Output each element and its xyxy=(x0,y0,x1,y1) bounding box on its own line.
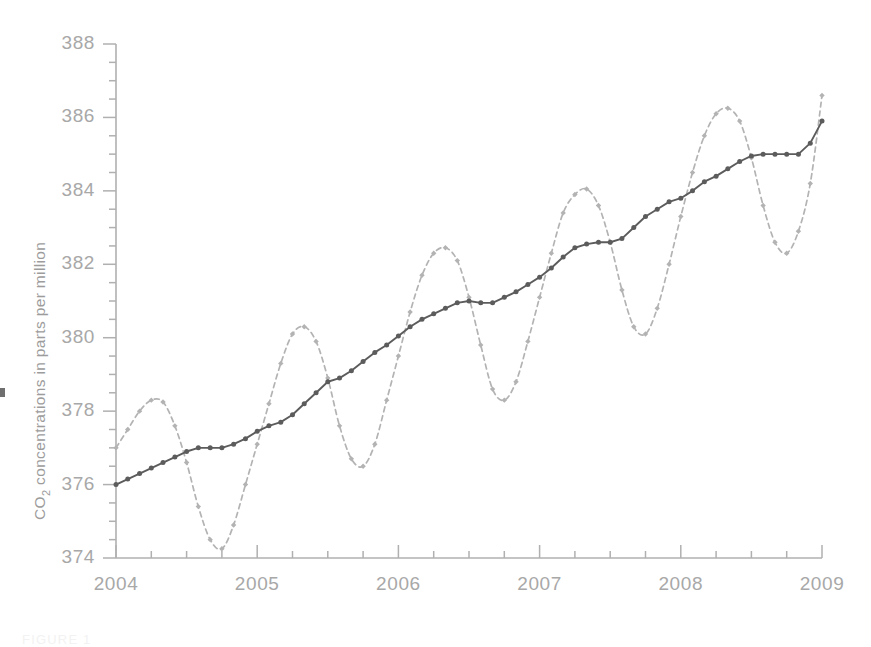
figure-caption: FIGURE 1 xyxy=(22,632,92,647)
data-point-marker xyxy=(537,275,542,280)
data-point-marker xyxy=(502,295,507,300)
data-point-marker xyxy=(808,141,813,146)
data-point-marker xyxy=(819,93,824,98)
data-point-marker xyxy=(360,464,365,469)
data-point-marker xyxy=(808,181,813,186)
data-point-marker xyxy=(443,245,448,250)
data-point-marker xyxy=(114,482,119,487)
data-point-marker xyxy=(467,299,472,304)
data-point-marker xyxy=(478,300,483,305)
y-axis-tick-label: 380 xyxy=(61,326,95,347)
data-point-marker xyxy=(337,376,342,381)
data-point-marker xyxy=(161,460,166,465)
data-point-marker xyxy=(760,203,765,208)
data-point-marker xyxy=(172,455,177,460)
x-axis-tick-label: 2009 xyxy=(800,573,845,594)
data-point-marker xyxy=(349,368,354,373)
x-axis-tick-label: 2007 xyxy=(517,573,562,594)
data-point-marker xyxy=(325,379,330,384)
data-point-marker xyxy=(243,436,248,441)
data-point-marker xyxy=(278,420,283,425)
data-point-marker xyxy=(196,504,201,509)
data-point-marker xyxy=(255,441,260,446)
x-axis-tick-label: 2005 xyxy=(235,573,280,594)
x-axis-tick-label: 2008 xyxy=(658,573,703,594)
y-axis-tick-label: 384 xyxy=(61,179,95,200)
data-point-marker xyxy=(314,390,319,395)
data-point-marker xyxy=(313,339,318,344)
data-point-marker xyxy=(278,361,283,366)
data-point-marker xyxy=(290,412,295,417)
series-trend-solid xyxy=(114,119,825,487)
data-point-marker xyxy=(266,423,271,428)
y-axis-tick-label: 382 xyxy=(61,252,95,273)
y-axis-tick-labels: 374376378380382384386388 xyxy=(61,32,95,567)
data-point-marker xyxy=(396,333,401,338)
x-axis-tick-label: 2004 xyxy=(94,573,139,594)
data-point-marker xyxy=(384,397,389,402)
data-point-marker xyxy=(619,236,624,241)
data-point-marker xyxy=(772,152,777,157)
data-point-marker xyxy=(337,423,342,428)
data-point-marker xyxy=(631,225,636,230)
data-point-marker xyxy=(125,477,130,482)
data-point-marker xyxy=(796,229,801,234)
series-monthly-dashed xyxy=(113,93,824,552)
y-axis-tick-label: 388 xyxy=(61,32,95,53)
data-point-marker xyxy=(690,170,695,175)
page-edge-mark xyxy=(0,388,5,397)
data-point-marker xyxy=(761,152,766,157)
data-point-marker xyxy=(408,324,413,329)
data-point-marker xyxy=(407,309,412,314)
data-point-marker xyxy=(302,401,307,406)
data-point-marker xyxy=(231,442,236,447)
x-axis-tick-labels: 200420052006200720082009 xyxy=(94,573,845,594)
data-point-marker xyxy=(184,460,189,465)
y-axis-title-rest: concentrations in parts per million xyxy=(31,242,48,490)
data-point-marker xyxy=(219,445,224,450)
data-point-marker xyxy=(537,295,542,300)
data-point-marker xyxy=(643,214,648,219)
y-axis-tick-label: 374 xyxy=(61,546,95,567)
data-point-marker xyxy=(455,258,460,263)
data-point-marker xyxy=(514,289,519,294)
data-point-marker xyxy=(361,359,366,364)
data-point-marker xyxy=(196,445,201,450)
y-axis-tick-label: 386 xyxy=(61,105,95,126)
data-point-marker xyxy=(584,242,589,247)
data-point-marker xyxy=(396,353,401,358)
data-point-marker xyxy=(137,471,142,476)
data-point-marker xyxy=(184,449,189,454)
y-axis-title-main: CO xyxy=(31,496,48,520)
data-point-marker xyxy=(149,466,154,471)
data-point-marker xyxy=(525,282,530,287)
data-point-marker xyxy=(655,207,660,212)
y-axis-tick-label: 378 xyxy=(61,399,95,420)
data-point-marker xyxy=(208,445,213,450)
data-point-marker xyxy=(266,401,271,406)
data-point-marker xyxy=(690,188,695,193)
data-series-group xyxy=(113,93,824,552)
data-point-marker xyxy=(478,342,483,347)
data-point-marker xyxy=(513,379,518,384)
data-point-marker xyxy=(419,273,424,278)
data-point-marker xyxy=(561,254,566,259)
data-point-marker xyxy=(525,339,530,344)
data-point-marker xyxy=(490,386,495,391)
x-axis-tick-label: 2006 xyxy=(376,573,421,594)
data-point-marker xyxy=(737,159,742,164)
data-point-marker xyxy=(655,306,660,311)
data-point-marker xyxy=(490,300,495,305)
series-line xyxy=(116,95,822,549)
data-point-marker xyxy=(549,251,554,256)
data-point-marker xyxy=(572,245,577,250)
data-point-marker xyxy=(666,262,671,267)
data-point-marker xyxy=(725,166,730,171)
data-point-marker xyxy=(749,153,754,158)
y-axis-title: CO2 concentrations in parts per million xyxy=(31,242,52,520)
data-point-marker xyxy=(608,240,613,245)
data-point-marker xyxy=(172,423,177,428)
data-point-marker xyxy=(243,482,248,487)
data-point-marker xyxy=(737,118,742,123)
axis-ticks xyxy=(103,44,822,558)
